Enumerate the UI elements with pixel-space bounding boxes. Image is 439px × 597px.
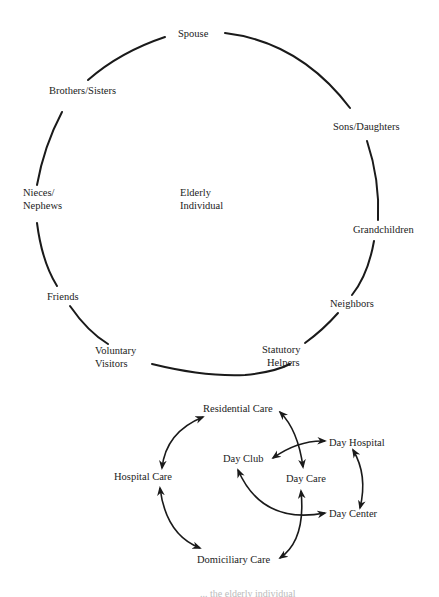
node-neighbors: Neighbors (330, 297, 374, 310)
node-day-care: Day Care (286, 472, 326, 485)
node-statutory-helpers-line1: Statutory (262, 343, 301, 356)
node-residential-care: Residential Care (203, 402, 273, 415)
node-nieces-nephews-line1: Nieces/ (23, 186, 62, 199)
arc-grandchildren-neighbors (352, 241, 374, 295)
node-grandchildren: Grandchildren (353, 223, 414, 236)
arc-nieces-brothers (37, 112, 62, 185)
arc-neighbors-statutory (305, 313, 338, 343)
center-label-line1: Elderly (180, 186, 223, 199)
link-residential-daycare (280, 412, 303, 467)
node-statutory-helpers: Statutory Helpers (262, 343, 301, 369)
node-brothers-sisters: Brothers/Sisters (49, 84, 116, 97)
node-voluntary-visitors-line2: Visitors (95, 357, 136, 370)
link-dayhospital-daycenter (353, 450, 363, 508)
node-sons-daughters: Sons/Daughters (333, 120, 400, 133)
link-daycare-domiciliary (280, 491, 302, 558)
node-voluntary-visitors-line1: Voluntary (95, 344, 136, 357)
arc-sons-grandchildren (367, 141, 378, 220)
arc-voluntary-friends (70, 306, 108, 344)
care-network-links (160, 412, 363, 558)
node-hospital-care: Hospital Care (114, 470, 172, 483)
figure-caption: ... the elderly individual (200, 588, 296, 597)
arc-spouse-sons (225, 33, 350, 108)
node-voluntary-visitors: Voluntary Visitors (95, 344, 136, 370)
node-day-hospital: Day Hospital (329, 436, 385, 449)
link-hospital-residential (162, 417, 203, 468)
arc-friends-nieces (37, 223, 57, 286)
center-elderly-individual: Elderly Individual (180, 186, 223, 212)
node-nieces-nephews-line2: Nephews (23, 199, 62, 212)
node-day-center: Day Center (329, 507, 377, 520)
node-domiciliary-care: Domiciliary Care (197, 553, 270, 566)
link-hospital-domiciliary (160, 488, 200, 548)
node-statutory-helpers-line2: Helpers (262, 356, 301, 369)
node-friends: Friends (47, 290, 79, 303)
arc-spouse-brothers (88, 37, 165, 80)
center-label-line2: Individual (180, 199, 223, 212)
node-day-club: Day Club (223, 452, 264, 465)
node-spouse: Spouse (178, 27, 208, 40)
node-nieces-nephews: Nieces/ Nephews (23, 186, 62, 212)
